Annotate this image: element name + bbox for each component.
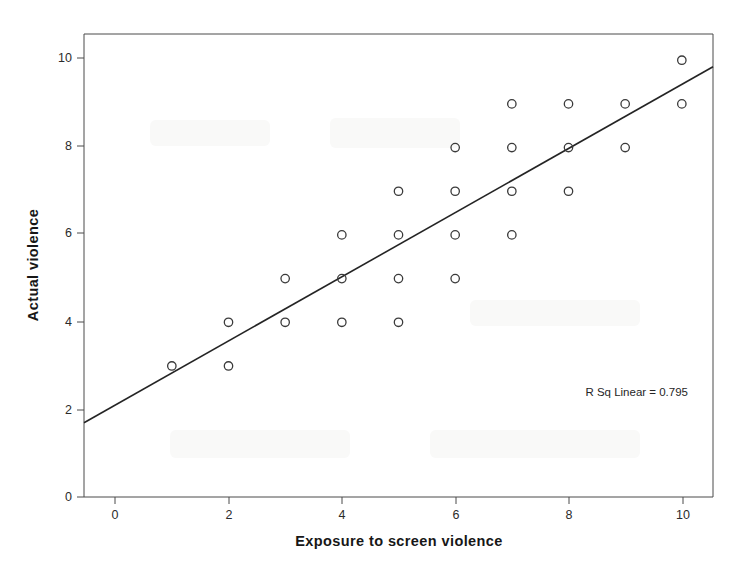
chart-canvas: 0 2 4 6 8 10 Actual violence 0 2 4 6 8 1… xyxy=(0,0,750,565)
x-tick-label-6: 6 xyxy=(453,508,460,522)
y-tick-label-0: 0 xyxy=(65,490,72,504)
y-tick-label-6: 6 xyxy=(65,226,72,240)
x-tick-label-10: 10 xyxy=(676,508,690,522)
y-tick-label-2: 2 xyxy=(65,403,72,417)
x-tick-label-8: 8 xyxy=(566,508,573,522)
r-squared-annotation: R Sq Linear = 0.795 xyxy=(585,386,688,398)
y-tick-label-10: 10 xyxy=(58,51,72,65)
y-axis-title: Actual violence xyxy=(25,209,41,321)
y-tick-label-8: 8 xyxy=(65,139,72,153)
x-axis-title: Exposure to screen violence xyxy=(295,533,502,549)
chart-background xyxy=(0,0,750,565)
x-tick-label-2: 2 xyxy=(226,508,233,522)
x-tick-label-4: 4 xyxy=(339,508,346,522)
scatter-plot-figure: 0 2 4 6 8 10 Actual violence 0 2 4 6 8 1… xyxy=(0,0,750,565)
x-tick-label-0: 0 xyxy=(112,508,119,522)
y-tick-label-4: 4 xyxy=(65,315,72,329)
